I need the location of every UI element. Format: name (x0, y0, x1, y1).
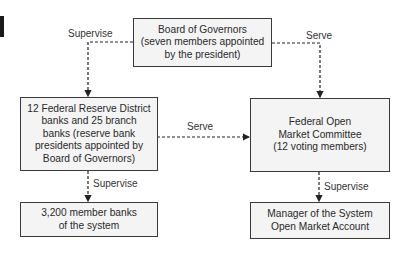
node-member-banks: 3,200 member banks of the system (20, 202, 158, 237)
node-district-banks: 12 Federal Reserve District banks and 25… (20, 97, 158, 171)
node-text: Federal Open Market Committee (12 voting… (273, 116, 366, 154)
node-manager-soma: Manager of the System Open Market Accoun… (250, 202, 390, 239)
edge-board-to-district (88, 42, 133, 96)
node-text: Board of Governors (seven members appoin… (141, 24, 264, 62)
node-text: 3,200 member banks of the system (41, 207, 137, 232)
label-board-to-fomc: Serve (306, 30, 332, 41)
node-fomc: Federal Open Market Committee (12 voting… (250, 98, 390, 172)
node-text: Manager of the System Open Market Accoun… (267, 208, 372, 233)
label-fomc-to-manager: Supervise (324, 181, 368, 192)
node-board-of-governors: Board of Governors (seven members appoin… (133, 18, 272, 67)
label-district-to-fomc: Serve (187, 121, 213, 132)
node-text: 12 Federal Reserve District banks and 25… (27, 103, 150, 166)
label-district-to-members: Supervise (93, 178, 137, 189)
edge-board-to-fomc (272, 43, 320, 97)
label-board-to-district: Supervise (68, 28, 112, 39)
